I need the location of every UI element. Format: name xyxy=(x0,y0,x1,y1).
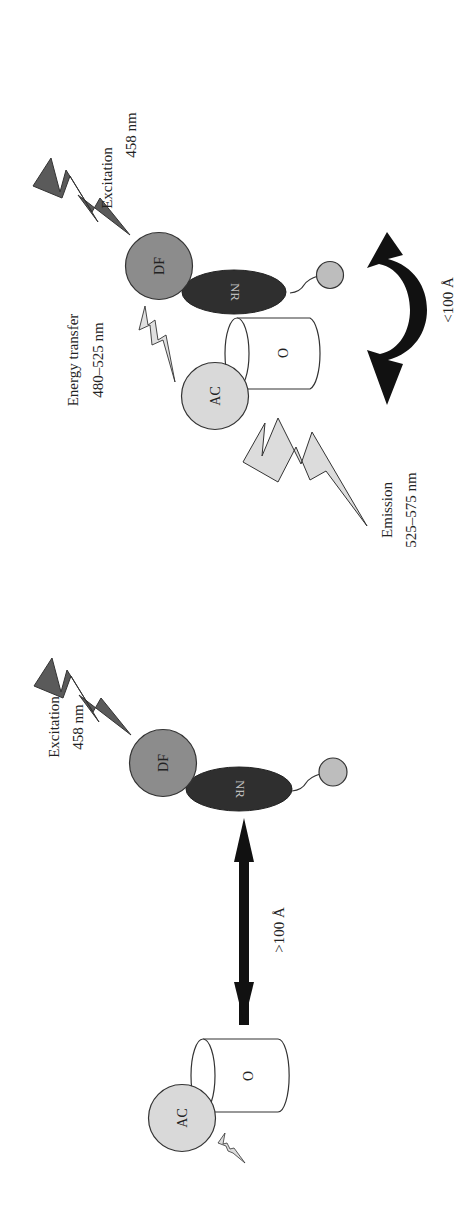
straight-double-arrow-icon xyxy=(234,818,254,1025)
bottom-distance-label: >100 Å xyxy=(271,907,287,953)
bottom-cylinder-label: O xyxy=(241,1071,256,1081)
top-distance-label: <100 Å xyxy=(440,277,456,323)
receptor-label: NR xyxy=(228,283,243,301)
top-panel: Excitation 458 nm NR DF O AC Energy tran… xyxy=(33,112,456,548)
emission-bolt-icon xyxy=(243,418,367,526)
bottom-acceptor-label: AC xyxy=(175,1108,190,1127)
bottom-excitation-label: Excitation xyxy=(46,696,62,758)
energy-transfer-label: Energy transfer xyxy=(65,314,81,407)
curved-double-arrow-icon xyxy=(367,232,427,405)
bottom-ligand-circle xyxy=(319,758,347,786)
cylinder-label: O xyxy=(276,348,291,358)
emission-wavelength: 525–575 nm xyxy=(403,472,419,548)
bottom-receptor-label: NR xyxy=(233,780,248,798)
excitation-bolt-icon xyxy=(33,158,130,235)
donor-label: DF xyxy=(152,257,167,275)
bottom-donor-label: DF xyxy=(156,754,171,772)
energy-transfer-bolt-icon xyxy=(139,306,175,382)
top-excitation-wavelength: 458 nm xyxy=(123,112,139,158)
bottom-panel: Excitation 458 nm NR DF >100 Å O AC xyxy=(34,658,347,1163)
bottom-ligand-tether xyxy=(292,774,320,791)
emission-label: Emission xyxy=(379,482,395,538)
bottom-small-bolt-icon xyxy=(218,1133,245,1163)
energy-transfer-wavelength: 480–525 nm xyxy=(90,322,106,398)
ligand-tether xyxy=(290,276,318,293)
fret-diagram: Excitation 458 nm NR DF O AC Energy tran… xyxy=(0,0,470,1205)
acceptor-label: AC xyxy=(208,386,223,405)
top-excitation-label: Excitation xyxy=(99,147,115,209)
ligand-circle xyxy=(317,262,344,289)
bottom-excitation-wavelength: 458 nm xyxy=(70,704,86,750)
